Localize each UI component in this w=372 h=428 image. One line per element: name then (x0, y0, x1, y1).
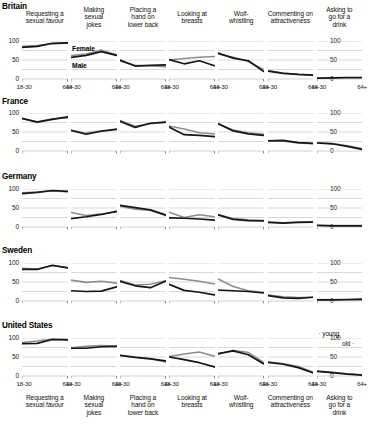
column-header-6: Asking to go for a drink (310, 6, 370, 28)
united-states-x-tick-young-0: 18-30 (13, 380, 35, 387)
row-label-sweden: Sweden (2, 246, 32, 255)
united-states-x-tick-young-3: 18-30 (160, 380, 182, 387)
row-label-britain: Britain (2, 2, 27, 11)
panel-france-2 (120, 113, 166, 156)
y-tick-label-left: 50 (0, 56, 19, 63)
panel-britain-6 (317, 41, 363, 84)
united-states-x-tick-young-1: 18-30 (62, 380, 84, 387)
panel-germany-6 (317, 189, 363, 232)
britain-x-tick-young-4: 18-30 (209, 83, 231, 90)
panel-britain-3 (169, 41, 215, 84)
y-tick-label-left: 0 (0, 223, 19, 230)
row-label-united-states: United States (2, 321, 52, 330)
panel-britain-2 (120, 41, 166, 84)
legend-label-male: Male (72, 62, 87, 69)
britain-x-tick-young-1: 18-30 (62, 83, 84, 90)
britain-x-tick-young-5: 18-30 (259, 83, 281, 90)
panel-united-states-1 (71, 338, 117, 381)
y-tick-label-left: 50 (0, 128, 19, 135)
panel-sweden-5 (268, 263, 314, 306)
panel-france-3 (169, 113, 215, 156)
legend-young-text: young (322, 330, 339, 337)
britain-x-tick-young-3: 18-30 (160, 83, 182, 90)
panel-united-states-5 (268, 338, 314, 381)
panel-france-4 (218, 113, 264, 156)
britain-x-tick-young-0: 18-30 (13, 83, 35, 90)
panel-united-states-0 (22, 338, 68, 381)
united-states-x-tick-young-5: 18-30 (259, 380, 281, 387)
panel-germany-4 (218, 189, 264, 232)
panel-germany-3 (169, 189, 215, 232)
legend-dot-old: · (350, 340, 354, 347)
britain-x-tick-young-6: 18-30 (308, 83, 330, 90)
panel-united-states-4 (218, 338, 264, 381)
britain-x-tick-old-6: 64+ (352, 83, 372, 90)
y-tick-label-left: 100 (0, 37, 19, 44)
y-tick-label-left: 50 (0, 204, 19, 211)
united-states-x-tick-young-2: 18-30 (111, 380, 133, 387)
panel-sweden-4 (218, 263, 264, 306)
y-tick-label-left: 50 (0, 278, 19, 285)
panel-britain-5 (268, 41, 314, 84)
panel-france-5 (268, 113, 314, 156)
britain-x-tick-young-2: 18-30 (111, 83, 133, 90)
united-states-x-tick-young-6: 18-30 (308, 380, 330, 387)
y-tick-label-left: 100 (0, 185, 19, 192)
united-states-x-tick-old-6: 64+ (352, 380, 372, 387)
legend-label-young: · young (319, 330, 340, 337)
column-footer-6: Asking to go for a drink (310, 394, 370, 416)
panel-sweden-3 (169, 263, 215, 306)
panel-united-states-3 (169, 338, 215, 381)
legend-label-old: old · (342, 340, 354, 347)
y-tick-label-left: 50 (0, 353, 19, 360)
y-tick-label-left: 0 (0, 372, 19, 379)
y-tick-label-left: 100 (0, 109, 19, 116)
panel-sweden-2 (120, 263, 166, 306)
y-tick-label-left: 0 (0, 75, 19, 82)
panel-united-states-2 (120, 338, 166, 381)
panel-france-6 (317, 113, 363, 156)
panel-germany-2 (120, 189, 166, 232)
panel-germany-1 (71, 189, 117, 232)
panel-britain-0 (22, 41, 68, 84)
panel-united-states-6 (317, 338, 363, 381)
panel-sweden-1 (71, 263, 117, 306)
panel-france-0 (22, 113, 68, 156)
legend-label-female: Female (72, 45, 95, 52)
panel-sweden-6 (317, 263, 363, 306)
panel-france-1 (71, 113, 117, 156)
row-label-france: France (2, 97, 28, 106)
y-tick-label-left: 0 (0, 297, 19, 304)
panel-sweden-0 (22, 263, 68, 306)
panel-germany-5 (268, 189, 314, 232)
row-label-germany: Germany (2, 172, 36, 181)
panel-germany-0 (22, 189, 68, 232)
y-tick-label-left: 100 (0, 334, 19, 341)
y-tick-label-left: 100 (0, 259, 19, 266)
y-tick-label-left: 0 (0, 147, 19, 154)
panel-britain-4 (218, 41, 264, 84)
united-states-x-tick-young-4: 18-30 (209, 380, 231, 387)
